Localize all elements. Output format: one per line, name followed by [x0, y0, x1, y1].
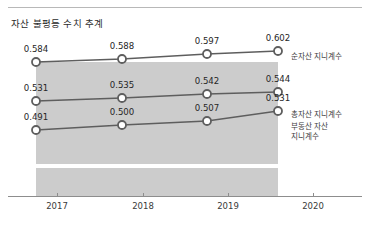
data-point-marker — [203, 50, 211, 58]
data-point-label: 0.602 — [266, 33, 291, 43]
series-line-real-estate — [36, 111, 278, 130]
data-point-marker — [274, 107, 282, 115]
legend-item-real-estate-line2: 지니계수 — [291, 132, 319, 141]
data-point-marker — [118, 94, 126, 102]
data-point-marker — [274, 47, 282, 55]
data-point-label: 0.491 — [24, 112, 49, 122]
data-point-marker — [118, 121, 126, 129]
legend-item-total-asset: 총자산 지니계수 — [291, 110, 342, 120]
legend-item-real-estate: 부동산 자산지니계수 — [291, 122, 328, 142]
data-point-label: 0.544 — [266, 74, 291, 84]
chart-figure: 자산 불평등 수치 추계 2017 2018 2019 2020 — [0, 0, 370, 226]
data-point-label: 0.531 — [266, 93, 291, 103]
data-point-marker — [32, 126, 40, 134]
data-point-label: 0.597 — [195, 36, 220, 46]
series-line-net-asset — [36, 51, 278, 62]
plot-area: 2017 2018 2019 2020 0.584 0.588 0.597 0.… — [0, 0, 370, 226]
data-point-label: 0.507 — [195, 103, 220, 113]
legend-item-real-estate-line1: 부동산 자산 — [291, 122, 328, 131]
legend-item-net-asset: 순자산 지니계수 — [291, 52, 342, 62]
data-point-marker — [32, 97, 40, 105]
data-point-label: 0.542 — [195, 76, 220, 86]
data-point-marker — [118, 55, 126, 63]
data-point-marker — [32, 58, 40, 66]
data-point-label: 0.584 — [24, 44, 49, 54]
data-point-label: 0.588 — [110, 41, 135, 51]
data-point-label: 0.535 — [110, 80, 135, 90]
series-line-total-asset — [36, 92, 278, 101]
data-point-marker — [203, 117, 211, 125]
data-point-marker — [203, 90, 211, 98]
data-point-label: 0.500 — [110, 107, 135, 117]
data-point-label: 0.531 — [24, 83, 49, 93]
